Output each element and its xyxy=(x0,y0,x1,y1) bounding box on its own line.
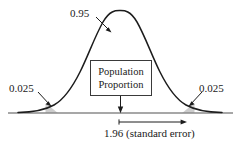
callout-line-2: Proportion xyxy=(99,78,144,91)
population-proportion-callout-box: Population Proportion xyxy=(90,60,152,96)
right-tail-probability-label: 0.025 xyxy=(199,83,224,95)
standard-error-label: 1.96 (standard error) xyxy=(104,128,195,140)
normal-distribution-diagram: 0.95 0.025 0.025 Population Proportion 1… xyxy=(0,0,240,149)
center-probability-label: 0.95 xyxy=(70,8,89,20)
callout-line-1: Population xyxy=(98,65,144,78)
left-tail-probability-label: 0.025 xyxy=(9,83,34,95)
standard-error-measure-arrowhead xyxy=(181,119,187,124)
